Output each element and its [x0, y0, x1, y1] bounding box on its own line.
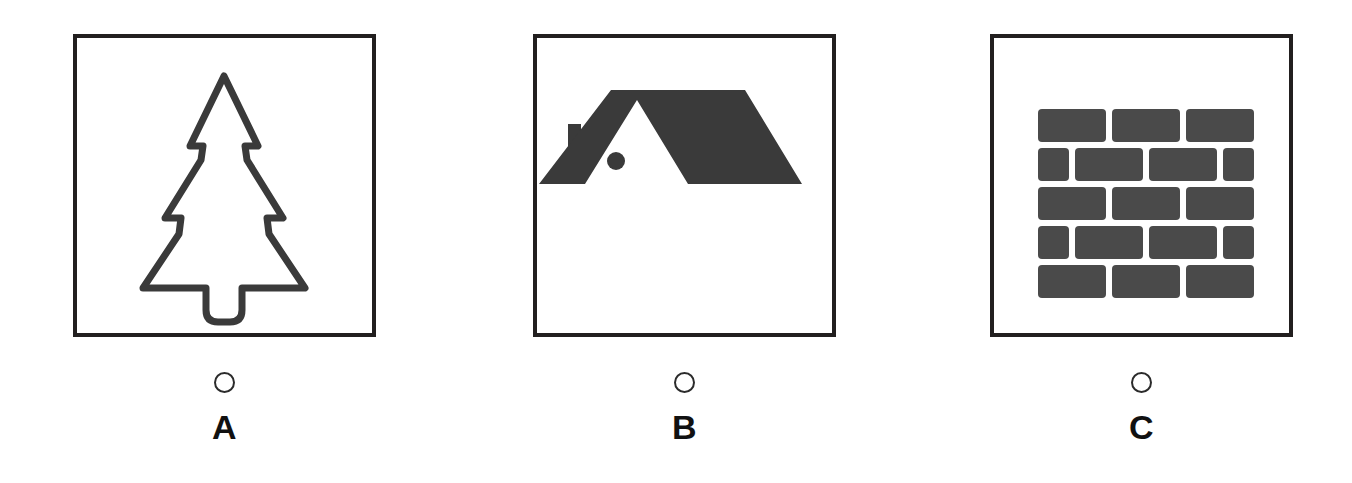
brick: [1112, 109, 1180, 142]
brick-group: [1038, 109, 1254, 298]
choice-option-c[interactable]: C: [990, 34, 1293, 444]
radio-button-c[interactable]: [1131, 372, 1152, 393]
brick: [1186, 265, 1254, 298]
brick: [1075, 226, 1143, 259]
option-letter-a: A: [212, 410, 237, 444]
roof-shape: [539, 90, 802, 184]
brick: [1186, 109, 1254, 142]
brick: [1112, 187, 1180, 220]
brick: [1112, 265, 1180, 298]
brick-wall-icon: [994, 38, 1289, 333]
brick: [1149, 148, 1217, 181]
christmas-tree-outline-icon: [77, 38, 372, 333]
brick-half: [1038, 226, 1069, 259]
radio-button-a[interactable]: [214, 372, 235, 393]
image-frame-c[interactable]: [990, 34, 1293, 337]
radio-button-b[interactable]: [674, 372, 695, 393]
image-choice-board: A B: [0, 0, 1352, 483]
image-frame-a[interactable]: [73, 34, 376, 337]
brick-half: [1038, 148, 1069, 181]
brick: [1038, 265, 1106, 298]
brick: [1038, 187, 1106, 220]
choice-option-b[interactable]: B: [533, 34, 836, 444]
image-frame-b[interactable]: [533, 34, 836, 337]
house-roof-icon: [537, 38, 832, 333]
option-letter-c: C: [1129, 410, 1154, 444]
brick: [1149, 226, 1217, 259]
brick: [1186, 187, 1254, 220]
option-letter-b: B: [672, 410, 697, 444]
brick: [1038, 109, 1106, 142]
brick: [1075, 148, 1143, 181]
choice-option-a[interactable]: A: [73, 34, 376, 444]
brick-half: [1223, 148, 1254, 181]
attic-window-dot: [607, 152, 625, 170]
brick-half: [1223, 226, 1254, 259]
